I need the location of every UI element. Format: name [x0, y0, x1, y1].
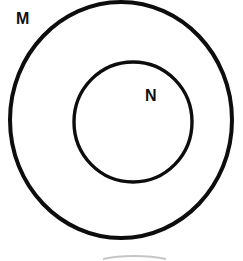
- euler-diagram-svg: [0, 0, 243, 261]
- outer-circle-m: [10, 2, 232, 238]
- page-edge-arc-icon: [103, 256, 166, 259]
- set-label-n: N: [145, 88, 157, 104]
- diagram-canvas: M N: [0, 0, 243, 261]
- set-label-m: M: [16, 11, 29, 27]
- inner-circle-n: [74, 62, 192, 182]
